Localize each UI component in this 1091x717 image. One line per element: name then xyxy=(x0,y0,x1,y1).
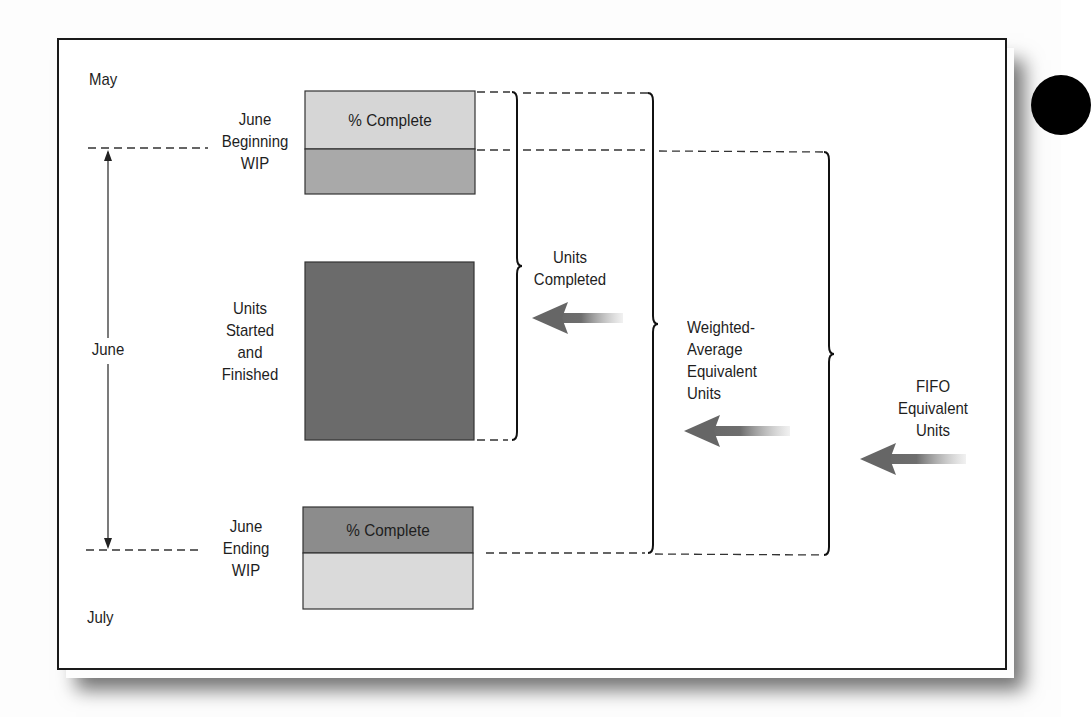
dashed-line-bwip-mid-3 xyxy=(659,151,824,152)
dashed-line-ewip-mid-2 xyxy=(655,554,824,555)
units-completed-label: Units Completed xyxy=(526,247,614,291)
weighted-average-arrow-icon xyxy=(684,415,790,447)
june-label: June xyxy=(85,339,131,361)
units-completed-brace xyxy=(512,92,522,440)
beginning-wip-percent-complete-text: % Complete xyxy=(314,110,467,132)
beginning-wip-label: June Beginning WIP xyxy=(207,109,304,175)
ending-wip-label: June Ending WIP xyxy=(202,516,290,582)
beginning-wip-block xyxy=(305,91,475,194)
beginning-wip-remaining xyxy=(305,149,475,194)
fifo-arrow-icon xyxy=(860,443,966,475)
may-label: May xyxy=(89,69,117,91)
weighted-average-label: Weighted- Average Equivalent Units xyxy=(687,317,801,405)
arrowhead-up-icon xyxy=(104,150,112,161)
weighted-average-brace xyxy=(648,93,658,553)
july-label: July xyxy=(87,607,114,629)
fifo-label: FIFO Equivalent Units xyxy=(886,376,979,442)
started-finished-block xyxy=(305,262,474,440)
fifo-brace xyxy=(824,152,834,555)
ending-wip-remaining xyxy=(303,553,473,609)
units-completed-arrow-icon xyxy=(532,302,623,334)
ending-wip-percent-complete-text: % Complete xyxy=(312,520,465,542)
started-finished-label: Units Started and Finished xyxy=(206,298,294,386)
arrowhead-down-icon xyxy=(104,538,112,549)
